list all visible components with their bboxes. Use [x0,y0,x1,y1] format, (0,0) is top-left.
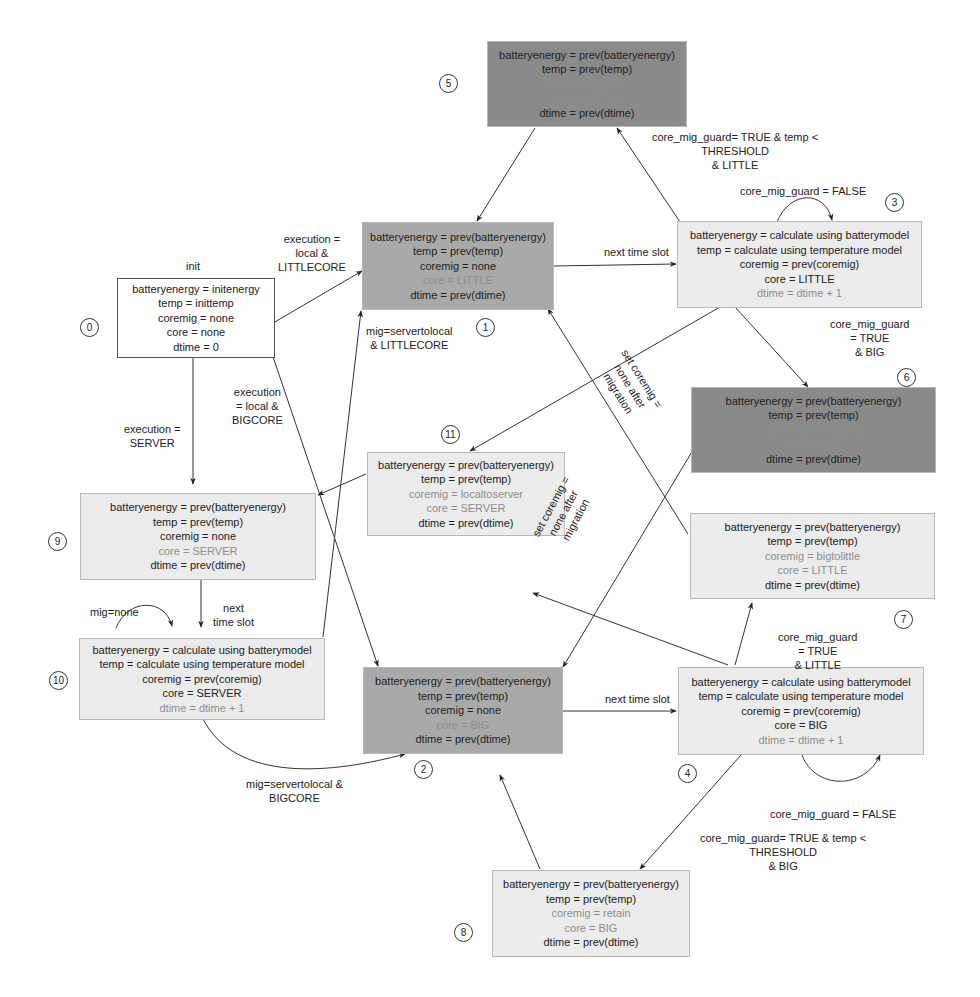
label-3-to-5: core_mig_guard= TRUE & temp < THRESHOLD … [652,130,818,172]
state-line: temp = inittemp [118,296,274,311]
state-line: dtime = prev(dtime) [364,732,562,747]
label-line: mig=servertolocal [366,324,453,338]
state-line: dtime = dtime + 1 [80,701,324,716]
state-line: batteryenergy = prev(batteryenergy) [368,458,564,473]
edge-6-to-2 [563,450,693,667]
label-line: mig=none [90,605,139,619]
state-number-0: 0 [80,318,99,337]
state-number-7: 7 [894,610,913,629]
label-4-self: core_mig_guard = FALSE [770,807,896,821]
state-line: dtime = prev(dtime) [691,578,934,593]
state-line: core = SERVER [368,501,564,516]
state-line: batteryenergy = prev(batteryenergy) [493,877,689,892]
edge-10-to-1 [323,311,361,637]
label-line: = TRUE [778,644,858,658]
label-line: BIGCORE [246,791,343,805]
edge-4-to-7 [735,603,752,665]
state-line: dtime = prev(dtime) [493,935,689,950]
label-line: & LITTLE [778,658,858,672]
state-line: temp = prev(temp) [493,892,689,907]
label-4-to-8: core_mig_guard= TRUE & temp < THRESHOLD … [700,831,866,873]
init-label: init [186,259,200,273]
label-1-to-3: next time slot [604,245,669,259]
state-line: dtime = dtime + 1 [678,286,921,301]
label-line: core_mig_guard= TRUE & temp < [700,831,866,845]
label-line: THRESHOLD [652,144,818,158]
edge-0-to-1 [273,271,362,323]
state-line: dtime = prev(dtime) [81,558,315,573]
label-3-self: core_mig_guard = FALSE [740,184,866,198]
state-number-9: 9 [48,532,67,551]
label-4-to-7: core_mig_guard = TRUE & LITTLE [778,630,858,672]
state-line: core = LITTLE [488,91,686,106]
state-line: batteryenergy = prev(batteryenergy) [692,394,935,409]
state-line: batteryenergy = initenergy [118,282,274,297]
label-2-to-4: next time slot [605,692,670,706]
state-line: coremig = retain [493,906,689,921]
state-line: temp = prev(temp) [363,244,553,259]
state-line: temp = prev(temp) [488,62,686,77]
edge-1-to-3 [554,264,676,266]
state-2[interactable]: batteryenergy = prev(batteryenergy) temp… [363,667,563,754]
label-line: next time slot [604,245,669,259]
label-10-to-2: mig=servertolocal & BIGCORE [246,777,343,805]
label-line: & LITTLECORE [366,338,453,352]
state-7[interactable]: batteryenergy = prev(batteryenergy) temp… [690,513,935,599]
state-line: batteryenergy = calculate using batterym… [679,675,923,690]
state-line: core = BIG [679,718,923,733]
state-0[interactable]: batteryenergy = initenergy temp = initte… [117,278,275,358]
edge-3-self [777,198,832,222]
state-line: core = none [118,325,274,340]
edge-5-to-1 [477,128,535,221]
state-line: core = BIG [692,437,935,452]
state-5[interactable]: batteryenergy = prev(batteryenergy) temp… [487,41,687,127]
state-number-5: 5 [439,74,458,93]
state-8[interactable]: batteryenergy = prev(batteryenergy) temp… [492,870,690,957]
state-line: coremig = localtoserver [368,487,564,502]
label-line: next [213,601,254,615]
state-line: coremig = none [81,529,315,544]
edge-4-self [802,755,880,781]
label-line: next time slot [605,692,670,706]
state-line: batteryenergy = prev(batteryenergy) [81,500,315,515]
state-line: core = LITTLE [678,272,921,287]
label-line: = local & [232,399,283,413]
state-line: temp = calculate using temperature model [679,689,923,704]
label-10-to-1: mig=servertolocal & LITTLECORE [366,324,453,352]
state-line: core = SERVER [80,686,324,701]
edge-3-to-11 [470,307,720,451]
label-line: THRESHOLD [700,845,866,859]
state-line: coremig = prev(coremig) [679,704,923,719]
state-number-8: 8 [454,923,473,942]
state-number-4: 4 [678,764,697,783]
state-3[interactable]: batteryenergy = calculate using batterym… [677,221,922,308]
label-line: & LITTLE [652,158,818,172]
state-9[interactable]: batteryenergy = prev(batteryenergy) temp… [80,493,316,580]
state-line: batteryenergy = calculate using batterym… [678,228,921,243]
label-line: core_mig_guard= TRUE & temp < [652,130,818,144]
state-6[interactable]: batteryenergy = prev(batteryenergy) temp… [691,387,936,473]
state-line: temp = prev(temp) [81,515,315,530]
state-line: coremig = none [364,703,562,718]
state-line: core = BIG [364,718,562,733]
state-line: core = LITTLE [691,563,934,578]
state-line: temp = calculate using temperature model [80,657,324,672]
state-line: batteryenergy = prev(batteryenergy) [488,48,686,63]
label-10-self: mig=none [90,605,139,619]
state-10[interactable]: batteryenergy = calculate using batterym… [79,638,325,720]
state-line: batteryenergy = prev(batteryenergy) [364,674,562,689]
state-line: dtime = dtime + 1 [679,733,923,748]
edge-8-to-2 [500,775,540,869]
edge-4-to-11 [533,593,728,665]
label-line: core_mig_guard = FALSE [740,184,866,198]
state-line: coremig = littletobig [692,423,935,438]
label-0-to-2: execution = local & BIGCORE [232,385,283,427]
state-4[interactable]: batteryenergy = calculate using batterym… [678,667,924,755]
label-line: core_mig_guard [778,630,858,644]
label-line: core_mig_guard [830,317,910,331]
state-1[interactable]: batteryenergy = prev(batteryenergy) temp… [362,222,554,310]
state-line: temp = prev(temp) [368,472,564,487]
state-line: coremig = none [118,311,274,326]
state-number-10: 10 [49,671,68,690]
state-line: dtime = prev(dtime) [363,288,553,303]
